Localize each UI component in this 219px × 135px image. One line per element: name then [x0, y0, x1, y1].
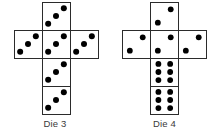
pip-dot — [140, 34, 146, 40]
pip-dot — [156, 89, 162, 95]
pip-dot — [53, 69, 59, 75]
pip-dot — [73, 49, 79, 55]
pip-dot — [33, 33, 39, 39]
pip-dot — [168, 6, 174, 12]
pip-dot — [89, 33, 95, 39]
pip-dot — [61, 33, 67, 39]
die-face-bottom — [151, 87, 179, 115]
die-3-net — [0, 0, 110, 118]
pip-dot — [61, 89, 67, 95]
pip-dot — [167, 89, 173, 95]
pip-dot — [167, 97, 173, 103]
pip-dot — [155, 20, 161, 26]
pip-dot — [61, 5, 67, 11]
pip-dot — [156, 61, 162, 67]
pip-dot — [168, 34, 174, 40]
pip-dot — [17, 49, 23, 55]
pip-dot — [156, 69, 162, 75]
pip-dot — [61, 61, 67, 67]
pip-dot — [45, 49, 51, 55]
pip-dot — [156, 77, 162, 83]
dice-nets-figure: Die 3 Die 4 — [0, 0, 219, 135]
die-4-group: Die 4 — [110, 0, 219, 135]
pip-dot — [81, 41, 87, 47]
pip-dot — [167, 105, 173, 111]
die-face-top — [151, 3, 179, 31]
pip-dot — [155, 48, 161, 54]
pip-dot — [53, 13, 59, 19]
die-4-net — [110, 0, 219, 118]
die-face-center — [151, 31, 179, 59]
pip-dot — [167, 69, 173, 75]
pip-dot — [167, 77, 173, 83]
pip-dot — [156, 105, 162, 111]
pip-dot — [167, 61, 173, 67]
pip-dot — [45, 21, 51, 27]
die-3-caption: Die 3 — [0, 118, 110, 129]
pip-dot — [156, 97, 162, 103]
die-face-left — [123, 31, 151, 59]
pip-dot — [25, 41, 31, 47]
die-face-right — [179, 31, 207, 59]
die-face-below-center — [151, 59, 179, 87]
pip-dot — [196, 34, 202, 40]
pip-dot — [45, 77, 51, 83]
pip-dot — [53, 97, 59, 103]
die-3-group: Die 3 — [0, 0, 110, 135]
pip-dot — [45, 105, 51, 111]
pip-dot — [127, 48, 133, 54]
pip-dot — [183, 48, 189, 54]
pip-dot — [53, 41, 59, 47]
die-4-caption: Die 4 — [110, 118, 219, 129]
